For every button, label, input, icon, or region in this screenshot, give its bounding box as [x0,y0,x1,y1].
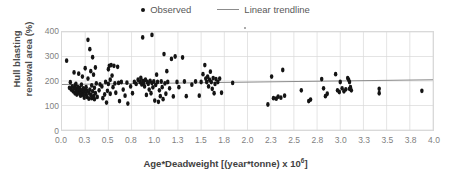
plot-svg [62,32,433,130]
y-tick-label: 0 [31,127,59,135]
x-tick-label: 2.8 [304,136,330,145]
stray-speck [244,27,246,29]
legend-item-observed: Observed [141,4,191,15]
x-tick-label: 3.8 [398,136,424,145]
data-points [65,33,424,107]
x-tick-label: 1.3 [165,136,191,145]
x-axis-title-prefix: Age*Deadweight [(year*tonne) x 10 [143,158,300,169]
x-axis-title: Age*Deadweight [(year*tonne) x 106] [0,157,451,169]
y-axis-title-line1: Hull blasting [11,31,22,88]
x-tick-label: 0.0 [48,136,74,145]
x-axis-tick-labels: 0.00.30.50.81.01.31.51.82.02.32.52.83.03… [0,136,451,148]
scatter-chart: Observed Linear trendline Hull blasting … [0,0,451,178]
legend-label-observed: Observed [150,4,191,15]
chart-legend: Observed Linear trendline [0,4,451,15]
y-tick-label: 100 [31,102,59,110]
x-tick-label: 3.3 [351,136,377,145]
x-tick-label: 1.5 [188,136,214,145]
x-tick-label: 0.3 [71,136,97,145]
plot-area [61,31,434,131]
legend-label-linear-trendline: Linear trendline [244,4,310,15]
y-tick-label: 200 [31,77,59,85]
x-tick-label: 2.5 [281,136,307,145]
legend-item-linear-trendline: Linear trendline [217,4,310,15]
x-tick-label: 4.0 [421,136,447,145]
x-tick-label: 3.0 [328,136,354,145]
x-tick-label: 1.8 [211,136,237,145]
legend-line-marker-icon [217,9,239,10]
y-axis-tick-labels: 0100200300400 [29,0,59,178]
x-tick-label: 2.0 [235,136,261,145]
y-tick-label: 400 [31,27,59,35]
x-axis-title-suffix: ] [304,158,307,169]
x-tick-label: 2.3 [258,136,284,145]
x-tick-label: 0.8 [118,136,144,145]
x-tick-label: 0.5 [95,136,121,145]
legend-dot-marker-icon [141,8,145,12]
x-tick-label: 1.0 [141,136,167,145]
x-tick-label: 3.5 [374,136,400,145]
y-tick-label: 300 [31,52,59,60]
